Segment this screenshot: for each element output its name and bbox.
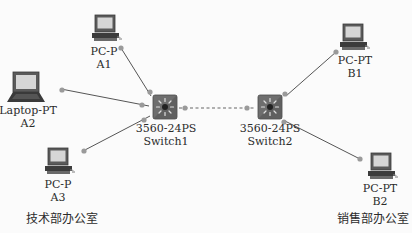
pc-icon — [340, 24, 370, 50]
device-pc-b1[interactable] — [340, 24, 370, 50]
device-pc-a1[interactable] — [92, 15, 122, 41]
port-dot — [81, 148, 86, 153]
port-dot — [139, 102, 144, 107]
port-dot — [118, 45, 123, 50]
device-switch2[interactable] — [258, 95, 282, 119]
switch-icon — [258, 95, 282, 119]
label-pc-a1: PC-P A1 — [91, 45, 118, 71]
device-name: Switch2 — [240, 135, 301, 148]
link-a2-switch1[interactable] — [61, 89, 149, 106]
pc-icon — [92, 15, 122, 41]
label-laptop-a2: Laptop-PT A2 — [0, 104, 57, 130]
device-pc-b2[interactable] — [368, 153, 398, 179]
device-name: Switch1 — [136, 135, 197, 148]
label-pc-b1: PC-PT B1 — [338, 54, 372, 80]
device-name: B1 — [338, 67, 372, 80]
pc-icon — [45, 148, 75, 174]
label-pc-b2: PC-PT B2 — [363, 182, 397, 208]
port-dot — [282, 91, 287, 96]
area-label-tech-office: 技术部办公室 — [26, 209, 98, 226]
port-dot — [357, 156, 362, 161]
device-model: PC-PT — [338, 54, 372, 67]
port-dot — [244, 105, 249, 110]
device-switch1[interactable] — [153, 95, 177, 119]
device-laptop-a2[interactable] — [7, 72, 45, 102]
port-dot — [182, 105, 187, 110]
label-pc-a3: PC-P A3 — [45, 178, 72, 204]
device-name: A2 — [0, 117, 57, 130]
device-model: 3560-24PS — [136, 122, 197, 135]
port-dot — [147, 89, 152, 94]
area-label-sales-office: 销售部办公室 — [337, 209, 409, 226]
link-switch2-b1[interactable] — [286, 52, 336, 96]
device-model: PC-P — [45, 178, 72, 191]
device-name: B2 — [363, 195, 397, 208]
pc-icon — [368, 153, 398, 179]
switch-icon — [153, 95, 177, 119]
device-model: Laptop-PT — [0, 104, 57, 117]
device-model: 3560-24PS — [240, 122, 301, 135]
device-pc-a3[interactable] — [45, 148, 75, 174]
label-switch1: 3560-24PS Switch1 — [136, 122, 197, 148]
link-a1-switch1[interactable] — [121, 48, 151, 96]
device-model: PC-PT — [363, 182, 397, 195]
device-name: A3 — [45, 191, 72, 204]
laptop-icon — [7, 72, 45, 102]
label-switch2: 3560-24PS Switch2 — [240, 122, 301, 148]
device-name: A1 — [91, 58, 118, 71]
device-model: PC-P — [91, 45, 118, 58]
port-dot — [59, 87, 64, 92]
